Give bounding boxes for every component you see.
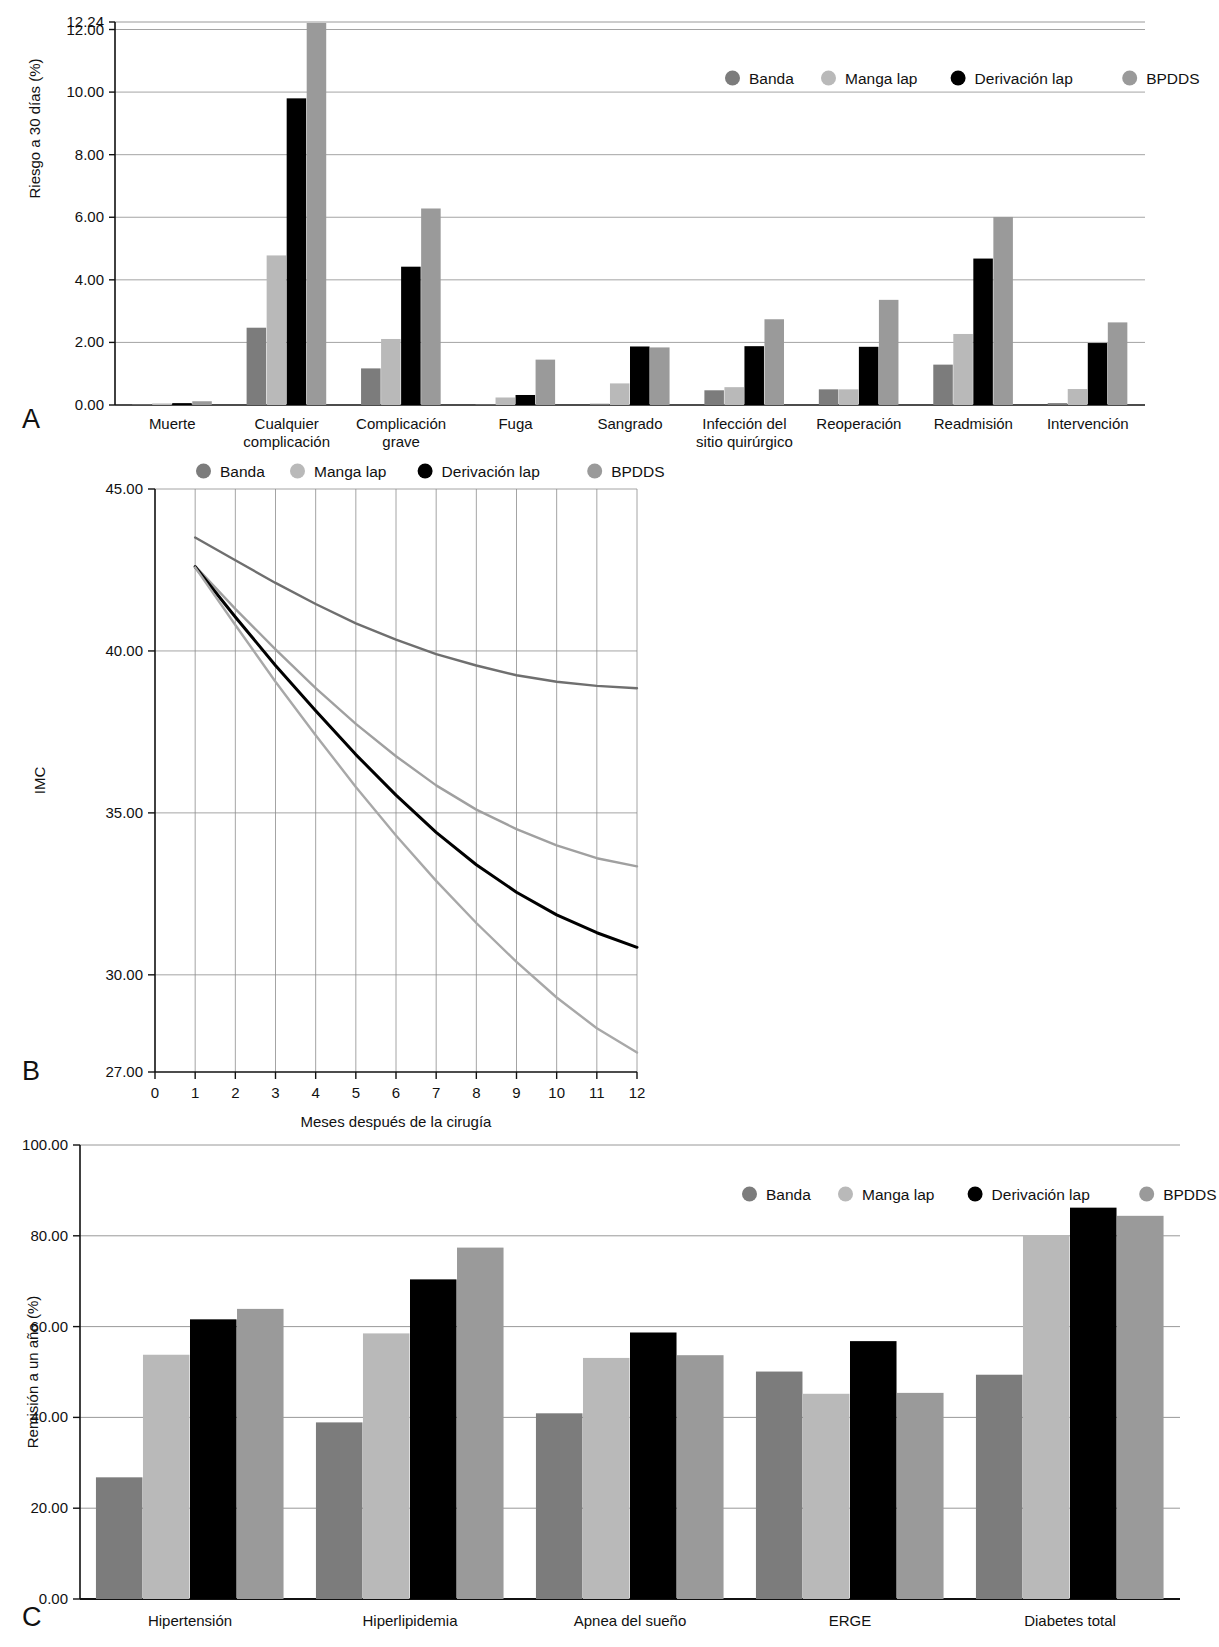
bar [381, 339, 401, 405]
bar [677, 1355, 724, 1599]
bar [819, 389, 839, 405]
legend-swatch-0 [196, 464, 211, 479]
bar [287, 98, 307, 405]
chart-legend: BandaManga lapDerivación lapBPDDS [196, 463, 665, 480]
x-category-label: Intervención [1047, 415, 1129, 432]
bar [421, 208, 441, 405]
bar [307, 23, 327, 405]
chart-legend: BandaManga lapDerivación lapBPDDS [725, 70, 1200, 87]
bar [724, 387, 744, 405]
y-tick-label: 4.00 [75, 271, 104, 288]
legend-label-3: BPDDS [1163, 1186, 1216, 1203]
bar [496, 397, 516, 405]
legend-swatch-3 [1139, 1187, 1154, 1202]
bar [859, 347, 879, 405]
x-category-label: Sangrado [597, 415, 662, 432]
y-tick-label: 20.00 [30, 1499, 68, 1516]
y-tick-label: 6.00 [75, 208, 104, 225]
panel-b-letter: B [22, 1056, 40, 1087]
bar [267, 255, 287, 405]
x-category-label: Diabetes total [1024, 1612, 1116, 1629]
legend-label-2: Derivación lap [992, 1186, 1090, 1203]
bar [630, 346, 650, 405]
bar [1068, 389, 1088, 405]
legend-swatch-2 [951, 71, 966, 86]
bar [973, 259, 993, 405]
x-category-label: Cualquier [255, 415, 319, 432]
bar [190, 1319, 237, 1599]
bar [839, 389, 859, 405]
legend-swatch-1 [838, 1187, 853, 1202]
legend-label-0: Banda [749, 70, 794, 87]
bar [953, 334, 973, 405]
y-tick-label: 12.24 [66, 13, 104, 30]
bar [803, 1394, 850, 1599]
bar [850, 1341, 897, 1599]
x-tick-label: 7 [432, 1084, 440, 1101]
legend-swatch-3 [1122, 71, 1137, 86]
bar [630, 1333, 677, 1600]
x-tick-label: 0 [151, 1084, 159, 1101]
bar [96, 1477, 143, 1599]
y-tick-label: 2.00 [75, 333, 104, 350]
y-tick-label: 80.00 [30, 1227, 68, 1244]
x-tick-label: 3 [271, 1084, 279, 1101]
legend-label-1: Manga lap [862, 1186, 934, 1203]
y-tick-label: 35.00 [105, 804, 143, 821]
bar [1108, 322, 1128, 405]
x-category-label: Hipertensión [148, 1612, 232, 1629]
legend-label-0: Banda [220, 463, 265, 480]
legend-swatch-1 [290, 464, 305, 479]
panel-a: A 0.002.004.006.008.0010.0012.0012.24Rie… [0, 0, 1219, 458]
chart-c-svg: 0.0020.0040.0060.0080.00100.00Remisión a… [0, 1130, 1219, 1647]
x-tick-label: 4 [311, 1084, 319, 1101]
x-category-label: Fuga [498, 415, 533, 432]
bar [192, 401, 212, 405]
legend-label-1: Manga lap [845, 70, 917, 87]
x-category-label: Apnea del sueño [574, 1612, 687, 1629]
legend-swatch-0 [725, 71, 740, 86]
chart-b-svg: 27.0030.0035.0040.0045.00012345678910111… [0, 458, 1219, 1130]
bar [590, 404, 610, 405]
legend-swatch-2 [418, 464, 433, 479]
legend-swatch-0 [742, 1187, 757, 1202]
x-category-label: sitio quirúrgico [696, 433, 793, 450]
bar [316, 1422, 363, 1599]
bar [172, 403, 192, 405]
x-tick-label: 5 [352, 1084, 360, 1101]
bar [132, 404, 152, 405]
bar [476, 404, 496, 405]
y-tick-label: 30.00 [105, 966, 143, 983]
legend-swatch-3 [587, 464, 602, 479]
x-axis-title: Meses después de la cirugía [301, 1113, 493, 1130]
chart-a-svg: 0.002.004.006.008.0010.0012.0012.24Riesg… [0, 0, 1219, 458]
x-tick-label: 11 [589, 1084, 605, 1101]
y-tick-label: 8.00 [75, 146, 104, 163]
panel-c: C 0.0020.0040.0060.0080.00100.00Remisión… [0, 1130, 1219, 1647]
bar [764, 319, 784, 405]
bar [457, 1248, 504, 1599]
bar [704, 390, 724, 405]
bar [1088, 343, 1108, 405]
bar [879, 300, 899, 405]
legend-swatch-1 [821, 71, 836, 86]
bar [897, 1393, 944, 1599]
y-tick-label: 27.00 [105, 1063, 143, 1080]
y-tick-label: 10.00 [66, 83, 104, 100]
bar [410, 1279, 457, 1599]
y-tick-label: 40.00 [105, 642, 143, 659]
bar [744, 346, 764, 405]
bar [1048, 403, 1068, 405]
bar [1117, 1216, 1164, 1599]
bar [516, 395, 536, 405]
legend-label-2: Derivación lap [975, 70, 1073, 87]
x-category-label: Hiperlipidemia [362, 1612, 458, 1629]
bar [1070, 1208, 1117, 1599]
bar [583, 1358, 630, 1599]
line-series-3 [195, 567, 637, 1052]
legend-label-3: BPDDS [611, 463, 664, 480]
bar [756, 1372, 803, 1599]
x-tick-label: 6 [392, 1084, 400, 1101]
x-category-label: grave [382, 433, 420, 450]
bar [143, 1355, 190, 1599]
